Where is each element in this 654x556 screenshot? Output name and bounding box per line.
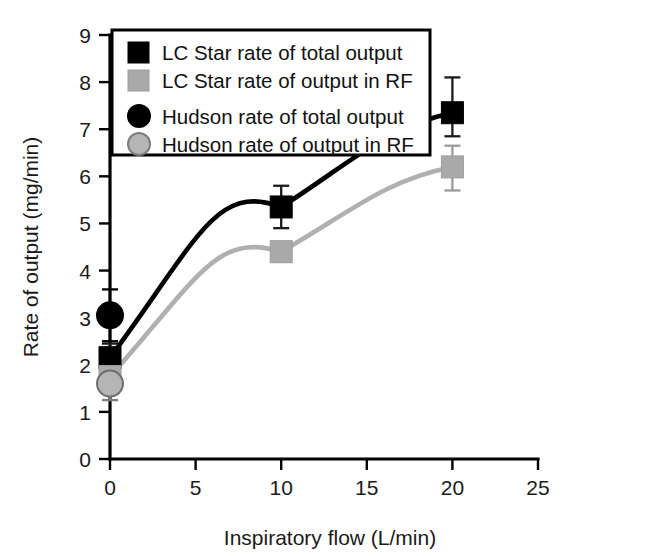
y-tick-label: 3 [79,307,91,330]
legend-marker-filled-circle-gray [128,133,150,155]
x-tick-label: 25 [526,476,549,499]
legend-label: LC Star rate of output in RF [162,69,413,92]
x-tick-label: 0 [104,476,116,499]
figure-root: 0123456789 0510152025 Rate of output (mg… [0,0,654,556]
y-tick-label: 0 [79,448,91,471]
data-point-circle [97,371,123,397]
x-tick-label: 15 [355,476,378,499]
legend-label: LC Star rate of total output [162,41,403,64]
x-axis-title: Inspiratory flow (L/min) [224,526,436,549]
y-tick-label: 4 [79,260,91,283]
y-tick-label: 6 [79,165,91,188]
y-axis-title: Rate of output (mg/min) [19,137,42,358]
x-tick-label: 10 [270,476,293,499]
legend-marker-filled-square-gray [128,70,149,91]
y-tick-label: 5 [79,212,91,235]
data-point-square [441,102,463,124]
y-tick-label: 2 [79,354,91,377]
y-tick-label: 7 [79,118,91,141]
y-tick-label: 1 [79,401,91,424]
y-tick-label: 8 [79,71,91,94]
legend-marker-filled-circle-black [128,105,150,127]
chart-legend: LC Star rate of total outputLC Star rate… [112,30,430,156]
legend-label: Hudson rate of total output [162,105,404,128]
x-tick-label: 20 [441,476,464,499]
data-point-square [270,241,292,263]
legend-label: Hudson rate of output in RF [162,133,414,156]
data-point-square [441,156,463,178]
data-point-square [270,196,292,218]
x-tick-label: 5 [190,476,202,499]
legend-marker-filled-square-black [128,42,149,63]
y-tick-label: 9 [79,24,91,47]
data-point-circle [97,302,123,328]
line-chart: 0123456789 0510152025 Rate of output (mg… [0,0,654,556]
